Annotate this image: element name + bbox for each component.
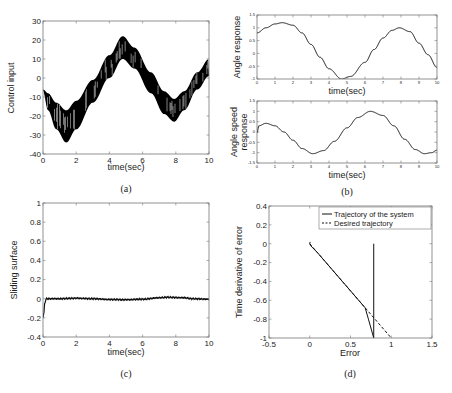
chart-b-bottom: 012345678910-1.5-1-0.500.511.5time(sec)A… [229,98,440,198]
x-tick-label: 7 [382,80,385,85]
x-tick-label: 7 [382,164,385,169]
x-tick-label: 2 [292,80,295,85]
y-tick-label: -0.2 [27,314,41,323]
y-tick-label: 30 [32,17,41,26]
x-tick-label: 4 [328,164,331,169]
x-tick-label: 6 [364,80,367,85]
chart-b-top: 012345678910-1-0.500.511.5time(sec)Angle… [232,12,440,96]
y-axis-label: response [239,113,249,150]
x-tick-label: 0 [256,164,259,169]
chart-a: 0246810-40-30-20-100102030time(sec)Contr… [6,17,214,195]
x-tick-label: 0 [41,339,46,348]
y-tick-label: -0.4 [253,277,267,286]
subfigure-caption: (a) [120,183,131,195]
x-tick-label: 2 [74,156,79,165]
y-tick-label: -0.8 [253,315,267,324]
x-tick-label: 8 [400,164,403,169]
x-tick-label: 10 [435,164,440,169]
x-tick-label: 5 [346,80,349,85]
subfigure-caption: (b) [341,186,353,198]
x-tick-label: 3 [310,80,313,85]
y-tick-label: -0.2 [253,258,267,267]
plot-area-c [43,297,209,318]
y-tick-label: 0 [37,74,42,83]
x-tick-label: 1 [274,164,277,169]
x-tick-label: 1 [274,80,277,85]
y-axis-label: Time derivative of error [234,226,244,318]
x-tick-label: 2 [74,339,79,348]
y-tick-label: 0 [253,51,256,56]
legend-entry: Trajectory of the system [334,210,414,219]
x-axis-label: time(sec) [328,86,365,96]
y-tick-label: 0.6 [30,237,42,246]
x-tick-label: 1 [389,340,394,349]
y-tick-label: -0.4 [27,333,41,342]
y-tick-label: 0.5 [249,38,255,43]
legend-entry: Desired trajectory [334,219,393,228]
plot-area-b-top [257,23,437,79]
x-tick-label: 10 [205,156,214,165]
chart-c: 0246810-0.4-0.200.20.40.60.81time(sec)Sl… [9,199,214,380]
y-tick-label: 0.4 [256,202,268,211]
x-tick-label: 0 [41,156,46,165]
x-tick-label: 2 [292,164,295,169]
y-tick-label: -40 [29,150,41,159]
y-tick-label: 1.5 [249,12,255,17]
y-axis-label: Angle response [232,16,242,79]
y-tick-label: -0.6 [253,296,267,305]
y-tick-label: 1 [253,109,256,114]
x-tick-label: 1.5 [426,340,438,349]
y-tick-label: 0.8 [30,218,42,227]
x-tick-label: 0 [256,80,259,85]
x-axis-label: time(sec) [328,170,365,180]
y-tick-label: 0 [263,240,268,249]
y-tick-label: 20 [32,36,41,45]
x-tick-label: 8 [400,80,403,85]
x-tick-label: 10 [205,339,214,348]
y-tick-label: 1.5 [249,98,255,103]
y-tick-label: 0.2 [256,221,268,230]
figure-canvas: 0246810-40-30-20-100102030time(sec)Contr… [0,0,452,393]
y-tick-label: -1.5 [248,160,256,165]
x-tick-label: 6 [364,164,367,169]
x-tick-label: 9 [418,80,421,85]
y-axis-label: Control input [6,62,16,114]
x-tick-label: 4 [328,80,331,85]
x-tick-label: 5 [346,164,349,169]
y-tick-label: 1 [37,199,42,208]
x-axis-label: time(sec) [107,162,144,172]
series-line [43,297,209,318]
control-band [43,36,209,142]
y-axis-label: Angle speed [229,107,239,157]
subfigure-caption: (c) [120,368,131,380]
chart-d: -0.500.511.5-1-0.8-0.6-0.4-0.200.20.4Err… [234,202,438,380]
y-tick-label: 0.2 [30,275,42,284]
y-tick-label: 10 [32,55,41,64]
plot-area-d [310,242,392,338]
y-tick-label: 0.4 [30,256,42,265]
y-tick-label: -30 [29,131,41,140]
y-tick-label: 0 [37,295,42,304]
series-trajectory-of-the-system [310,242,374,338]
plot-area-a [43,36,209,142]
subfigure-caption: (d) [344,368,356,380]
legend: Trajectory of the systemDesired trajecto… [319,207,431,229]
x-tick-label: 0 [308,340,313,349]
x-tick-label: 8 [174,339,179,348]
plot-area-b-bottom [257,111,437,153]
axes-box [43,203,209,337]
y-tick-label: 0.5 [249,119,255,124]
x-axis-label: Error [340,348,360,358]
x-tick-label: 10 [435,80,440,85]
axes-box [257,15,437,79]
y-tick-label: -1 [251,150,255,155]
y-tick-label: -20 [29,112,41,121]
x-tick-label: 3 [310,164,313,169]
series-line [257,111,437,153]
y-tick-label: -1 [260,334,268,343]
y-tick-label: 1 [253,25,256,30]
series-line [257,23,437,79]
y-axis-label: Sliding surface [9,240,19,299]
x-tick-label: 8 [174,156,179,165]
y-tick-label: -0.5 [248,64,256,69]
